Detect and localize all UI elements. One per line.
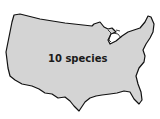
species-count-label: 10 species <box>48 53 107 64</box>
